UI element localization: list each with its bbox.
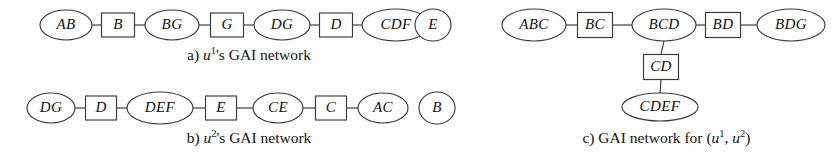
graph-node[interactable]: CDEF — [622, 93, 698, 121]
node-label: B — [432, 99, 442, 115]
node-label: D — [94, 99, 106, 115]
node-label: BD — [713, 16, 734, 32]
node-label: E — [215, 99, 226, 115]
caption-c-prefix: c) GAI network for ( — [582, 129, 711, 146]
caption-panel-b: b) u2's GAI network — [0, 129, 498, 147]
graph-node[interactable]: DEF — [127, 92, 193, 124]
graph-node[interactable]: AC — [358, 93, 408, 123]
node-label: AC — [372, 99, 394, 115]
graph-node[interactable]: BCD — [632, 9, 696, 41]
node-label: CD — [650, 58, 672, 74]
node-label: CDF — [380, 16, 412, 32]
graph-node[interactable]: DG — [27, 93, 75, 123]
caption-c-suffix: ) — [745, 129, 750, 146]
graph-node[interactable]: G — [211, 13, 244, 37]
nodes-layer: ABBBGGDGDCDFEDGDDEFECECACBABCBCBCDBDBDGC… — [27, 9, 825, 124]
caption-b-prefix: b) — [187, 129, 200, 146]
node-label: CE — [268, 99, 288, 115]
node-label: BDG — [775, 16, 807, 32]
node-label: B — [113, 16, 123, 32]
node-label: D — [329, 16, 341, 32]
caption-panel-c: c) GAI network for (u1, u2) — [498, 129, 835, 147]
caption-c-variable-2: u — [732, 129, 740, 146]
graph-node[interactable]: B — [102, 13, 135, 37]
node-label: AB — [55, 16, 75, 32]
caption-a-variable: u — [203, 46, 211, 63]
node-label: E — [427, 16, 438, 32]
caption-b-variable: u — [203, 129, 211, 146]
node-label: ABC — [518, 16, 549, 32]
graph-node[interactable]: DG — [254, 10, 310, 40]
node-label: DG — [39, 99, 62, 115]
node-label: DG — [270, 16, 293, 32]
caption-a-prefix: a) — [187, 46, 199, 63]
node-label: BG — [162, 16, 183, 32]
graph-node[interactable]: AB — [40, 10, 92, 40]
graph-node[interactable]: E — [206, 96, 237, 120]
node-label: DEF — [144, 99, 176, 115]
graph-node[interactable]: CE — [253, 93, 303, 123]
node-label: C — [326, 99, 337, 115]
node-label: BC — [585, 16, 606, 32]
graph-node[interactable]: CD — [644, 55, 679, 80]
graph-node[interactable]: BC — [578, 13, 613, 38]
graph-node[interactable]: E — [415, 9, 451, 41]
graph-edge — [660, 80, 661, 94]
graph-node[interactable]: BG — [145, 10, 199, 40]
graph-node[interactable]: D — [86, 96, 117, 120]
graph-edge — [661, 41, 664, 55]
node-label: CDEF — [640, 98, 681, 114]
graph-node[interactable]: BDG — [757, 9, 825, 41]
node-label: G — [221, 16, 232, 32]
graph-node[interactable]: BD — [706, 13, 741, 38]
graph-node[interactable]: ABC — [502, 9, 566, 41]
caption-a-suffix: 's GAI network — [216, 46, 311, 63]
caption-b-suffix: 's GAI network — [216, 129, 311, 146]
graph-node[interactable]: B — [419, 92, 455, 124]
gai-network-figure: ABBBGGDGDCDFEDGDDEFECECACBABCBCBCDBDBDGC… — [0, 0, 835, 164]
graph-node[interactable]: C — [316, 96, 347, 120]
caption-panel-a: a) u1's GAI network — [0, 46, 498, 64]
graph-node[interactable]: D — [320, 13, 353, 37]
node-label: BCD — [648, 16, 679, 32]
